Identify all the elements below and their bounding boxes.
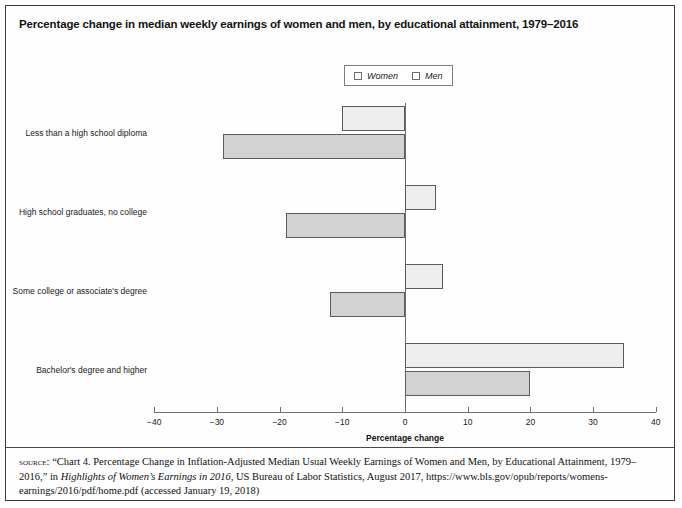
- x-axis-tick: [154, 407, 155, 412]
- source-label: source:: [19, 456, 50, 467]
- x-axis-tick-label: −40: [147, 417, 161, 427]
- bar-men-group-1: [223, 134, 405, 159]
- figure-frame: Percentage change in median weekly earni…: [5, 5, 675, 501]
- category-label: Bachelor's degree and higher: [6, 365, 147, 375]
- category-label: High school graduates, no college: [6, 207, 147, 217]
- source-text-italic: Highlights of Women’s Earnings in 2016: [61, 471, 231, 482]
- bar-women-group-2: [405, 185, 436, 210]
- x-axis-tick-label: 20: [526, 417, 535, 427]
- category-label: Some college or associate's degree: [6, 286, 147, 296]
- bar-women-group-4: [405, 343, 624, 368]
- bar-women-group-3: [405, 264, 443, 289]
- x-axis-tick: [656, 407, 657, 412]
- x-axis-tick: [405, 407, 406, 412]
- x-axis-tick-label: 40: [651, 417, 660, 427]
- x-axis-tick-label: −20: [272, 417, 286, 427]
- x-axis-tick-label: 0: [403, 417, 408, 427]
- x-axis-tick: [217, 407, 218, 412]
- bar-men-group-2: [286, 213, 405, 238]
- x-axis-tick: [280, 407, 281, 412]
- x-axis-tick: [468, 407, 469, 412]
- x-axis-tick: [342, 407, 343, 412]
- source-note: source: “Chart 4. Percentage Change in I…: [19, 455, 664, 499]
- category-label: Less than a high school diploma: [6, 128, 147, 138]
- source-divider: [6, 447, 674, 448]
- x-axis-tick-label: 10: [463, 417, 472, 427]
- x-axis-line: [154, 412, 656, 413]
- x-axis-tick: [593, 407, 594, 412]
- bar-men-group-3: [330, 292, 405, 317]
- x-axis-tick-label: −30: [210, 417, 224, 427]
- plot-area: −40−30−20−10010203040Percentage changeLe…: [6, 6, 676, 446]
- x-axis-tick-label: 30: [588, 417, 597, 427]
- x-axis-title: Percentage change: [366, 433, 444, 443]
- x-axis-tick-label: −10: [335, 417, 349, 427]
- bar-women-group-1: [342, 106, 405, 131]
- x-axis-tick: [530, 407, 531, 412]
- bar-men-group-4: [405, 371, 530, 396]
